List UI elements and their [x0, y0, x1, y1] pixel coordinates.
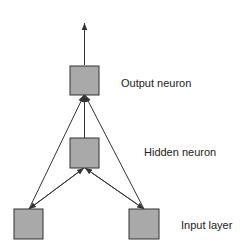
hidden-neuron-label: Hidden neuron: [144, 146, 216, 158]
output-neuron-node: [70, 66, 99, 95]
neural-network-diagram: Output neuron Hidden neuron Input layer: [0, 0, 240, 252]
diagram-canvas: Output neuron Hidden neuron Input layer: [0, 0, 240, 252]
edge-inputleft-start: [29, 168, 84, 209]
input-layer-label: Input layer: [181, 219, 233, 231]
hidden-neuron-node: [70, 138, 99, 168]
input-left-node: [14, 209, 43, 239]
input-right-node: [129, 209, 159, 239]
edge-inputright-start: [85, 168, 144, 209]
output-neuron-label: Output neuron: [121, 77, 191, 89]
